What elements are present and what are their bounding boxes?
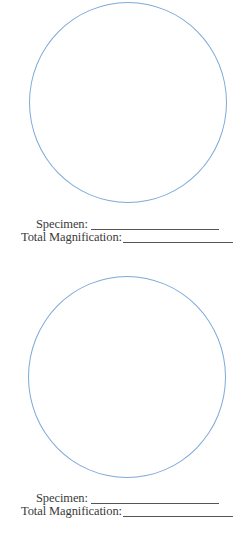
magnification-label-2: Total Magnification: — [21, 505, 122, 518]
magnification-blank-2[interactable] — [123, 516, 233, 517]
microscope-field-circle-2 — [28, 276, 226, 478]
microscope-field-circle-1 — [29, 2, 227, 203]
magnification-blank-1[interactable] — [123, 242, 233, 243]
magnification-label-1: Total Magnification: — [21, 231, 122, 244]
